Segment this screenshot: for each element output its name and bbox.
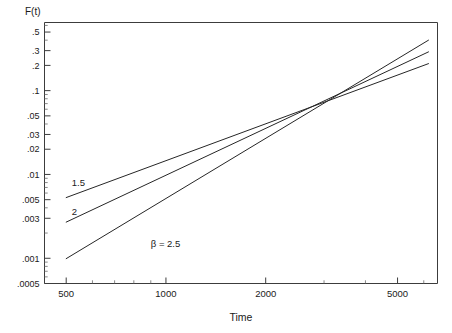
y-tick-label: .0005 [17,279,40,289]
x-axis-title: Time [230,311,253,323]
y-tick-label: .003 [22,214,40,224]
weibull-log-log-chart: .5.3.2.1.05.03.02.01.005.003.001.0005 50… [0,0,452,333]
chart-page: .5.3.2.1.05.03.02.01.005.003.001.0005 50… [0,0,452,333]
x-tick-label: 2000 [255,288,276,299]
y-tick-label: .02 [27,144,40,154]
y-tick-label: .001 [22,254,40,264]
y-tick-label: .005 [22,195,40,205]
y-axis-title: F(t) [25,6,41,17]
y-tick-label: .2 [32,61,40,71]
curve-label: 1.5 [72,177,85,188]
y-tick-label: .03 [27,130,40,140]
y-tick-label: .05 [27,111,40,121]
curve-label: β = 2.5 [151,238,181,249]
y-tick-label: .1 [32,86,40,96]
x-tick-label: 1000 [155,288,176,299]
curve-label: 2 [72,206,77,217]
y-tick-label: .3 [32,46,40,56]
y-tick-label: .5 [32,27,40,37]
y-tick-label: .01 [27,170,40,180]
x-tick-label: 5000 [387,288,408,299]
x-tick-label: 500 [58,288,74,299]
